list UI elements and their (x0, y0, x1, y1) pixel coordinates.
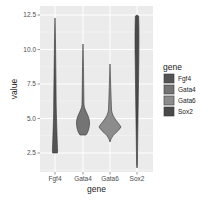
y-tick-label: 10.0 (23, 46, 36, 53)
legend-key (164, 74, 174, 83)
y-tick-label: 2.5 (27, 149, 36, 156)
x-axis-title: gene (87, 184, 106, 194)
legend-item-gata4: Gata4 (163, 84, 196, 95)
x-tick-label: Fgf4 (48, 175, 61, 183)
legend-item-sox2: Sox2 (163, 106, 193, 117)
legend-label: Sox2 (178, 108, 193, 115)
x-tick-label: Gata4 (74, 175, 92, 182)
legend-title: gene (163, 62, 182, 72)
violin-chart: 12.5 10.0 7.5 5.0 2.5 value Fgf4 Gata4 G… (0, 0, 209, 200)
y-axis-title: value (9, 79, 19, 100)
legend-label: Gata6 (178, 97, 196, 104)
y-tick-label: 7.5 (27, 80, 36, 87)
legend: gene Fgf4 Gata4 Gata6 Sox2 (163, 62, 196, 117)
legend-key (164, 96, 174, 105)
x-tick-label: Sox2 (130, 175, 145, 182)
legend-label: Gata4 (178, 86, 196, 93)
legend-item-fgf4: Fgf4 (163, 73, 191, 84)
legend-key (164, 107, 174, 116)
x-axis: Fgf4 Gata4 Gata6 Sox2 gene (48, 172, 144, 194)
legend-label: Fgf4 (178, 75, 191, 83)
legend-key (164, 85, 174, 94)
x-tick-label: Gata6 (101, 175, 119, 182)
y-axis: 12.5 10.0 7.5 5.0 2.5 value (9, 11, 40, 156)
y-tick-label: 12.5 (23, 11, 36, 18)
legend-item-gata6: Gata6 (163, 95, 196, 106)
y-tick-label: 5.0 (27, 115, 36, 122)
